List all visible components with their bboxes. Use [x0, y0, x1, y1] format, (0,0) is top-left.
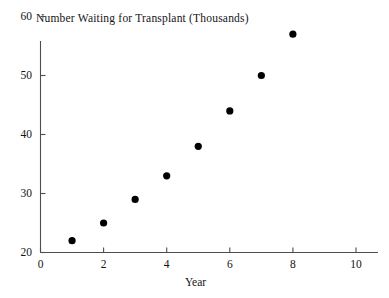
y-tick-label: 50: [6, 69, 32, 81]
plot-area: [0, 0, 389, 298]
data-points-group: [68, 0, 359, 244]
data-point: [100, 219, 107, 226]
data-point: [226, 107, 233, 114]
data-point: [68, 237, 75, 244]
x-tick-label: 10: [343, 258, 369, 270]
y-tick-marks: [41, 0, 46, 253]
x-tick-marks: [41, 248, 357, 253]
x-tick-label: 0: [28, 258, 54, 270]
data-point: [289, 31, 296, 38]
axes-group: [41, 41, 379, 253]
y-tick-label: 40: [6, 128, 32, 140]
y-tick-label: 20: [6, 246, 32, 258]
x-tick-label: 4: [154, 258, 180, 270]
data-point: [163, 172, 170, 179]
scatter-chart: Number Waiting for Transplant (Thousands…: [0, 0, 389, 298]
data-point: [258, 72, 265, 79]
data-point: [195, 143, 202, 150]
y-tick-label: 60: [6, 10, 32, 22]
x-axis-title-text: Year: [185, 276, 206, 288]
x-axis-title: Year: [0, 276, 389, 288]
x-tick-label: 8: [280, 258, 306, 270]
data-point: [132, 196, 139, 203]
x-tick-label: 6: [217, 258, 243, 270]
x-tick-label: 2: [91, 258, 117, 270]
y-tick-label: 30: [6, 187, 32, 199]
